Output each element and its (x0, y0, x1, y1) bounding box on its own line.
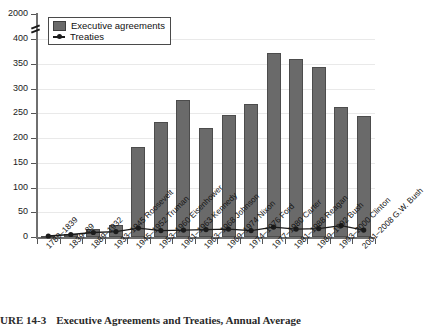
figure-caption-text: Executive Agreements and Treaties, Annua… (56, 314, 301, 326)
figure-caption: URE 14-3Executive Agreements and Treatie… (0, 314, 380, 326)
legend-label-treaties: Treaties (70, 31, 104, 42)
line-marker-icon (53, 33, 65, 41)
legend-item-executive-agreements: Executive agreements (53, 20, 165, 31)
figure-caption-number: URE 14-3 (0, 314, 46, 326)
bar-swatch-icon (53, 21, 66, 31)
legend-label-executive-agreements: Executive agreements (71, 20, 165, 31)
chart-legend: Executive agreements Treaties (48, 17, 171, 45)
legend-item-treaties: Treaties (53, 31, 165, 42)
